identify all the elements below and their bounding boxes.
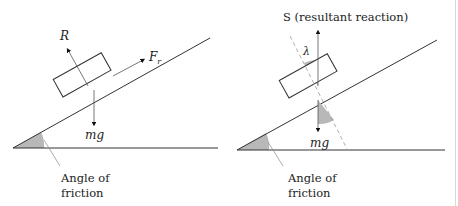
block-right [279, 54, 337, 98]
inclined-plane-figure: R Fr mg Angle of friction S (resultant r… [0, 0, 458, 206]
lambda-angle-shade-bottom [318, 100, 334, 124]
angle-label-line1: Angle of [60, 171, 110, 185]
resultant-label: S (resultant reaction) [283, 10, 408, 24]
friction-arrow [113, 60, 143, 76]
incline-line [13, 38, 210, 148]
angle-label-line2: friction [61, 186, 104, 200]
diagram-right [237, 32, 445, 166]
incline-line-right [237, 40, 437, 150]
weight-label: mg [85, 128, 104, 142]
angle-leader-line [44, 140, 60, 166]
weight-label-right: mg [310, 136, 329, 150]
friction-label: Fr [148, 50, 162, 66]
diagram-left [13, 38, 218, 166]
reaction-label: R [59, 29, 69, 43]
angle-label-right-line2: friction [288, 186, 331, 200]
lambda-label: λ [302, 45, 310, 58]
angle-label-right-line1: Angle of [287, 171, 337, 185]
angle-leader-line-right [268, 142, 283, 166]
